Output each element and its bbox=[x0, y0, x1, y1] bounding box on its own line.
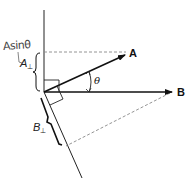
theta-label: θ bbox=[94, 76, 100, 86]
a-perp-brace bbox=[33, 53, 40, 91]
a-perp-label: A⊥ bbox=[20, 58, 33, 70]
vector-a-arrow bbox=[44, 55, 125, 92]
vector-b-label: B bbox=[177, 87, 185, 98]
vector-diagram bbox=[0, 0, 196, 192]
tilted-perpendicular-line bbox=[44, 92, 82, 178]
b-perp-label: B⊥ bbox=[33, 122, 46, 134]
b-projection-dashed bbox=[66, 93, 170, 146]
handwritten-asin-theta-note: Asinθ bbox=[3, 39, 31, 52]
vector-a-label: A bbox=[129, 48, 137, 59]
